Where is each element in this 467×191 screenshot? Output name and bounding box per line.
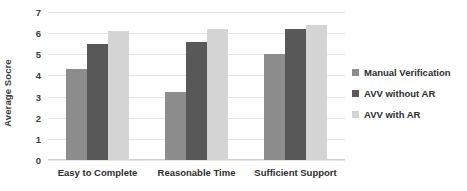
chart-legend: Manual VerificationAVV without ARAVV wit… — [352, 62, 464, 125]
legend-label: AVV with AR — [364, 109, 420, 120]
bar — [165, 92, 186, 160]
legend-label: AVV without AR — [364, 88, 435, 99]
plot-area: 76543210 Easy to CompleteReasonable Time… — [48, 12, 345, 160]
bar — [66, 69, 87, 160]
bar-groups: Easy to CompleteReasonable TimeSufficien… — [48, 12, 345, 160]
legend-swatch-icon — [352, 111, 359, 118]
y-axis-tick-label: 6 — [36, 28, 41, 39]
y-axis-tick-label: 7 — [36, 7, 41, 18]
y-axis-tick-label: 0 — [36, 155, 41, 166]
legend-item[interactable]: AVV with AR — [352, 104, 464, 125]
bar — [87, 44, 108, 160]
bar-chart: Average Socre 76543210 Easy to CompleteR… — [0, 0, 467, 191]
y-axis-tick-label: 2 — [36, 112, 41, 123]
y-axis-tick-label: 4 — [36, 70, 41, 81]
x-axis-category-label: Easy to Complete — [48, 167, 147, 178]
legend-item[interactable]: AVV without AR — [352, 83, 464, 104]
bar — [285, 29, 306, 160]
bar — [108, 31, 129, 160]
y-axis-title: Average Socre — [2, 0, 16, 38]
y-axis-tick-label: 3 — [36, 91, 41, 102]
legend-swatch-icon — [352, 69, 359, 76]
bar — [207, 29, 228, 160]
legend-label: Manual Verification — [364, 67, 451, 78]
bar-group: Easy to Complete — [48, 12, 147, 160]
bar — [306, 25, 327, 160]
x-axis-category-label: Reasonable Time — [147, 167, 246, 178]
legend-swatch-icon — [352, 90, 359, 97]
y-axis-tick-label: 5 — [36, 49, 41, 60]
bar — [264, 54, 285, 160]
gridline — [48, 160, 345, 161]
y-axis-tick-label: 1 — [36, 133, 41, 144]
x-axis-category-label: Sufficient Support — [246, 167, 345, 178]
bar — [186, 42, 207, 160]
bar-group: Reasonable Time — [147, 12, 246, 160]
bar-group: Sufficient Support — [246, 12, 345, 160]
legend-item[interactable]: Manual Verification — [352, 62, 464, 83]
